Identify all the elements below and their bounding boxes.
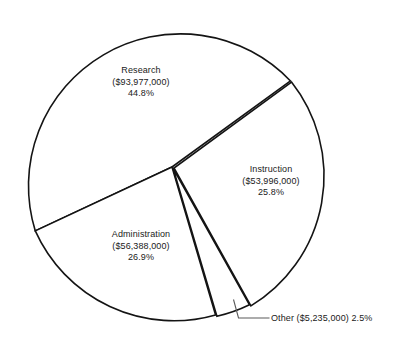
- pie-chart: Research ($93,977,000) 44.8% Instruction…: [0, 0, 401, 344]
- pie-label-research: Research ($93,977,000) 44.8%: [79, 65, 203, 100]
- pie-label-research-name: Research: [79, 65, 203, 77]
- pie-label-research-amount: ($93,977,000): [79, 77, 203, 89]
- pie-label-instruction-name: Instruction: [209, 164, 333, 176]
- pie-label-other-text: Other ($5,235,000) 2.5%: [271, 313, 372, 323]
- pie-label-research-percent: 44.8%: [79, 88, 203, 100]
- pie-label-instruction-amount: ($53,996,000): [209, 176, 333, 188]
- pie-chart-canvas: [0, 0, 401, 344]
- pie-label-administration-percent: 26.9%: [79, 252, 203, 264]
- pie-label-instruction: Instruction ($53,996,000) 25.8%: [209, 164, 333, 199]
- pie-label-other: Other ($5,235,000) 2.5%: [271, 313, 372, 323]
- pie-label-administration-amount: ($56,388,000): [79, 241, 203, 253]
- pie-label-administration: Administration ($56,388,000) 26.9%: [79, 229, 203, 264]
- pie-label-instruction-percent: 25.8%: [209, 187, 333, 199]
- pie-label-administration-name: Administration: [79, 229, 203, 241]
